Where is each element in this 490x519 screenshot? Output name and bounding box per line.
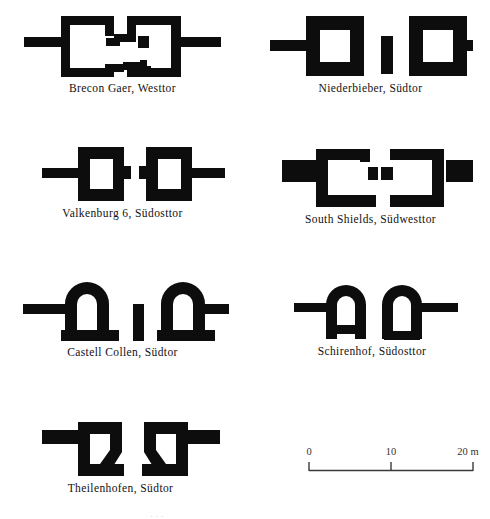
plan-southshields (268, 143, 473, 211)
scale-labels: 0 10 20 m (305, 446, 477, 460)
scale-bar: 0 10 20 m (305, 446, 477, 474)
scale-tick-label-20: 20 m (457, 446, 478, 457)
figure-caption: Niederbieber, Südtor (319, 82, 423, 94)
figure-valkenburg: Valkenburg 6, Südosttor (10, 143, 235, 219)
plan-valkenburg (20, 143, 225, 205)
figure-castellcollen: Castell Collen, Südtor (10, 278, 235, 358)
figure-southshields: South Shields, Südwesttor (258, 143, 483, 225)
figure-niederbieber: Niederbieber, Südtor (258, 10, 483, 94)
figure-caption: Castell Collen, Südtor (67, 346, 178, 358)
figure-caption: Theilenhofen, Südtor (68, 482, 174, 494)
plan-plate: Brecon Gaer, Westtor Niederbieber, Südto… (0, 0, 490, 519)
plan-castellcollen (17, 278, 229, 344)
scale-tick-label-0: 0 (306, 446, 311, 457)
cropped-footer-text: · · · (150, 512, 490, 519)
figure-caption: South Shields, Südwesttor (305, 213, 436, 225)
figure-brecon: Brecon Gaer, Westtor (10, 10, 235, 94)
figure-theilenhofen: Theilenhofen, Südtor (8, 418, 233, 494)
plan-niederbieber (268, 10, 473, 80)
figure-caption: Schirenhof, Südosttor (318, 345, 427, 357)
figure-schirenhof: Schirenhof, Südosttor (262, 281, 482, 357)
plan-schirenhof (272, 281, 472, 343)
scale-rule (305, 460, 477, 474)
plan-brecon (20, 10, 225, 80)
plan-theilenhofen (18, 418, 223, 480)
figure-caption: Valkenburg 6, Südosttor (62, 207, 182, 219)
scale-tick-label-10: 10 (386, 446, 397, 457)
figure-caption: Brecon Gaer, Westtor (69, 82, 176, 94)
cropped-footer: · · · (0, 512, 490, 519)
